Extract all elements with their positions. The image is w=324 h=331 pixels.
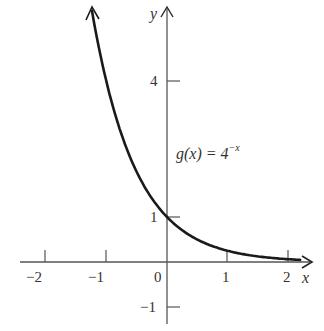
function-lhs: g(x) = 4 (176, 145, 229, 162)
x-axis-label: x (302, 270, 309, 286)
chart-canvas (0, 0, 324, 331)
y-axis-label: y (150, 6, 157, 22)
x-tick-label: −1 (88, 270, 104, 285)
function-curve (92, 11, 300, 260)
x-tick-label: 0 (154, 270, 162, 285)
y-ticks (167, 81, 180, 307)
function-label: g(x) = 4−x (176, 144, 240, 163)
x-tick-label: −2 (26, 270, 42, 285)
x-tick-label: 2 (283, 270, 291, 285)
function-exponent: −x (229, 142, 240, 153)
y-tick-label: 4 (150, 74, 158, 89)
y-tick-label: 1 (150, 210, 158, 225)
y-tick-label: −1 (140, 300, 156, 315)
x-tick-label: 1 (222, 270, 230, 285)
